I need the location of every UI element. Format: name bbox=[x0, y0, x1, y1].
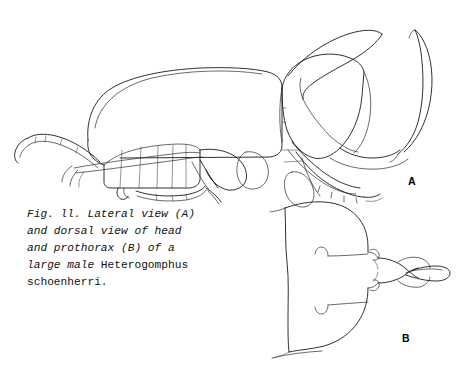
beetle-illustration bbox=[0, 0, 464, 378]
front-tibia-serration-2 bbox=[331, 192, 332, 198]
pronotum-outline bbox=[282, 54, 364, 158]
thoracic-horn-lower bbox=[303, 34, 382, 99]
pronotum-left-shoulder bbox=[270, 208, 285, 212]
metasternum-plate bbox=[200, 149, 247, 190]
hind-femur bbox=[28, 134, 100, 162]
panel-label-a: A bbox=[408, 175, 416, 187]
pronotal-ridge-lower-2 bbox=[328, 302, 368, 305]
mid-tarsus-1 bbox=[62, 166, 72, 182]
pronotum-dorsal-outline bbox=[285, 202, 368, 252]
mid-leg-claw bbox=[206, 188, 221, 202]
hind-tarsal-claw bbox=[15, 138, 28, 163]
hind-tarsal-claw-inner bbox=[20, 145, 29, 157]
head-tubercle-lower bbox=[370, 280, 379, 291]
panel-a-lateral-view bbox=[15, 30, 432, 207]
figure-page: Fig. ll. Lateral view (A) and dorsal vie… bbox=[0, 0, 464, 378]
thoracic-horn-base bbox=[303, 99, 358, 152]
elytra-upper-contour bbox=[95, 71, 262, 128]
pronotal-ridge-upper-2 bbox=[328, 254, 368, 256]
pronotum-anterior-angle bbox=[368, 252, 378, 258]
cephalic-horn-front bbox=[404, 30, 432, 152]
figure-caption: Fig. ll. Lateral view (A) and dorsal vie… bbox=[27, 206, 237, 291]
cephalic-horn-back bbox=[398, 30, 423, 154]
mid-leg-tarsus-chain bbox=[136, 186, 205, 196]
front-femur bbox=[292, 142, 360, 188]
head-lobe-lower bbox=[398, 277, 430, 287]
pronotum-base-line bbox=[272, 351, 322, 358]
head-tubercle-upper bbox=[370, 249, 379, 260]
head-dorsal-outline bbox=[378, 258, 418, 278]
front-coxa bbox=[284, 172, 314, 207]
mid-leg-tarsus-chain-lower bbox=[137, 190, 206, 201]
abdomen-segment-1 bbox=[120, 150, 122, 188]
front-tibia-serration-1 bbox=[318, 186, 320, 192]
pronotum-right-flank bbox=[354, 72, 371, 153]
abdomen-segment-4 bbox=[172, 145, 173, 188]
pronotal-ridge-lower bbox=[315, 305, 328, 314]
abdomen-segment-2 bbox=[139, 147, 141, 188]
front-tarsal-claw bbox=[364, 194, 380, 197]
pronotum-posterior-angle bbox=[368, 283, 378, 288]
panel-b-dorsal-view bbox=[270, 202, 450, 358]
mid-tarsus-2 bbox=[70, 170, 78, 186]
pronotal-ridge-upper bbox=[315, 247, 328, 256]
abdomen-segment-3 bbox=[157, 146, 158, 188]
front-tibia bbox=[296, 152, 364, 197]
cephalic-horn-tip bbox=[409, 30, 415, 38]
tarsal-claw-left bbox=[117, 188, 128, 199]
front-tarsal-claw-2 bbox=[366, 198, 382, 201]
panel-label-b: B bbox=[402, 332, 410, 344]
pronotum-midline-edge bbox=[285, 208, 289, 352]
cephalic-horn-dorsal bbox=[406, 266, 450, 281]
eye-canthus-upper bbox=[374, 260, 378, 269]
head-lower-margin bbox=[330, 158, 408, 169]
mid-tarsus-3 bbox=[79, 172, 84, 187]
pronotum-posterior-outline bbox=[289, 288, 368, 352]
mid-femur-2 bbox=[192, 162, 209, 190]
front-tibia-serration-4 bbox=[356, 198, 357, 203]
abdomen-upper-edge bbox=[104, 144, 200, 165]
hind-leg-joint-2 bbox=[60, 139, 62, 145]
